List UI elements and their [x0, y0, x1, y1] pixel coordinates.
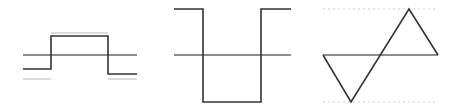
triangle-waveform-panel	[323, 9, 438, 102]
waveform-diagrams	[0, 0, 461, 110]
inverted-pulse-waveform-panel	[174, 9, 291, 102]
pulse-waveform-panel	[23, 33, 137, 79]
